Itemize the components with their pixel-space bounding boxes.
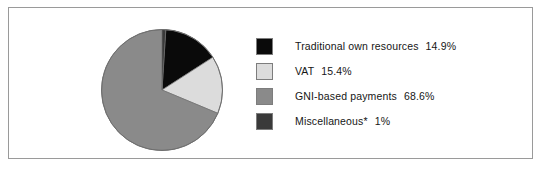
legend-label-text: Traditional own resources <box>295 40 419 52</box>
legend-label-vat: VAT15.4% <box>295 65 352 77</box>
pie-chart <box>101 29 223 151</box>
pie-chart-figure: Traditional own resources14.9% VAT15.4% … <box>0 0 543 170</box>
legend-label-miscellaneous: Miscellaneous*1% <box>295 115 390 127</box>
legend-label-text: GNI-based payments <box>295 90 397 102</box>
legend-item-miscellaneous[interactable]: Miscellaneous*1% <box>256 109 516 133</box>
legend-item-gni-based-payments[interactable]: GNI-based payments68.6% <box>256 84 516 108</box>
legend-value-text: 14.9% <box>426 40 457 52</box>
legend-label-gni-based-payments: GNI-based payments68.6% <box>295 90 434 102</box>
chart-legend: Traditional own resources14.9% VAT15.4% … <box>256 34 516 134</box>
legend-value-text: 15.4% <box>321 65 352 77</box>
legend-item-vat[interactable]: VAT15.4% <box>256 59 516 83</box>
legend-item-traditional-own-resources[interactable]: Traditional own resources14.9% <box>256 34 516 58</box>
legend-swatch-traditional-own-resources <box>256 38 273 55</box>
legend-label-text: VAT <box>295 65 314 77</box>
legend-label-text: Miscellaneous* <box>295 115 368 127</box>
legend-value-text: 1% <box>375 115 390 127</box>
legend-swatch-miscellaneous <box>256 113 273 130</box>
legend-swatch-vat <box>256 63 273 80</box>
legend-swatch-gni-based-payments <box>256 88 273 105</box>
legend-value-text: 68.6% <box>404 90 435 102</box>
legend-label-traditional-own-resources: Traditional own resources14.9% <box>295 40 456 52</box>
pie-chart-svg <box>101 29 223 151</box>
